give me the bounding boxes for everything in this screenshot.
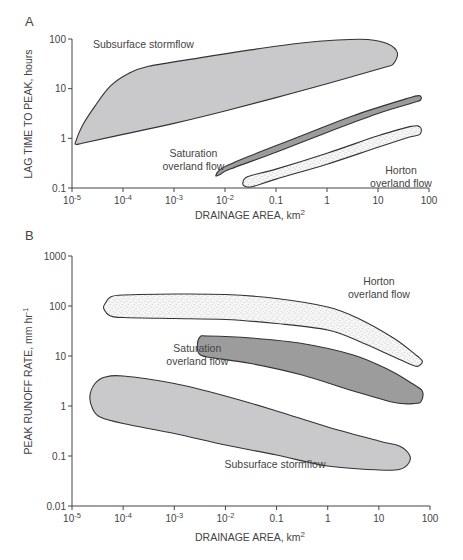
y-tick-label: 10: [55, 83, 67, 94]
x-tick-label: 10-5: [63, 511, 81, 524]
x-tick-label: 1: [325, 513, 331, 524]
x-tick-label: 1: [324, 195, 330, 206]
x-tick-label: 10-4: [114, 511, 132, 524]
panel-b-regions: [90, 294, 423, 470]
y-tick-label: 0.1: [52, 451, 66, 462]
x-tick-label: 10-2: [217, 511, 235, 524]
x-tick-label: 0.1: [269, 195, 283, 206]
x-tick-label: 10: [372, 195, 384, 206]
x-tick-label: 10-2: [216, 193, 234, 206]
x-tick-label: 10: [373, 513, 385, 524]
panel-b-y-axis-label: PEAK RUNOFF RATE, mm hr-1: [21, 307, 34, 454]
region-label-saturation-overland-flow: Saturationoverland flow: [166, 342, 228, 367]
y-tick-label: 1000: [44, 251, 67, 262]
x-tick-label: 0.1: [270, 513, 284, 524]
y-tick-label: 10: [55, 351, 67, 362]
region-label-horton-overland-flow: Hortonoverland flow: [348, 275, 410, 300]
panel-a-lag-time-chart: A 0.111010010-510-410-310-20.1110100 Sub…: [22, 14, 438, 221]
region-label-horton-overland-flow: Hortonoverland flow: [370, 164, 432, 189]
panel-a-y-axis-label: LAG TIME TO PEAK, hours: [22, 50, 34, 179]
panel-a-regions: [75, 39, 421, 187]
x-tick-label: 10-4: [114, 193, 132, 206]
x-tick-label: 10-5: [63, 193, 81, 206]
panel-b-peak-runoff-chart: B 0.010.1110100100010-510-410-310-20.111…: [21, 228, 439, 543]
x-tick-label: 100: [421, 195, 438, 206]
y-tick-label: 0.1: [52, 183, 66, 194]
panel-a-x-axis-label: DRAINAGE AREA, km2: [195, 208, 306, 221]
figure: A 0.111010010-510-410-310-20.1110100 Sub…: [0, 0, 463, 560]
hydrograph-figure: A 0.111010010-510-410-310-20.1110100 Sub…: [0, 0, 463, 560]
region-label-subsurface-stormflow: Subsurface stormflow: [93, 38, 194, 50]
x-tick-label: 10-3: [165, 511, 183, 524]
x-tick-label: 100: [422, 513, 439, 524]
y-tick-label: 0.01: [47, 501, 67, 512]
y-tick-label: 1: [60, 401, 66, 412]
region-subsurface-stormflow: [75, 39, 398, 144]
panel-b-x-axis-label: DRAINAGE AREA, km2: [195, 530, 306, 543]
x-tick-label: 10-3: [165, 193, 183, 206]
panel-a-label: A: [25, 14, 34, 29]
region-label-saturation-overland-flow: Saturationoverland flow: [162, 147, 224, 172]
y-tick-label: 100: [49, 301, 66, 312]
panel-b-label: B: [25, 228, 34, 243]
region-label-subsurface-stormflow: Subsurface stormflow: [225, 458, 326, 470]
y-tick-label: 1: [60, 133, 66, 144]
y-tick-label: 100: [49, 34, 66, 45]
